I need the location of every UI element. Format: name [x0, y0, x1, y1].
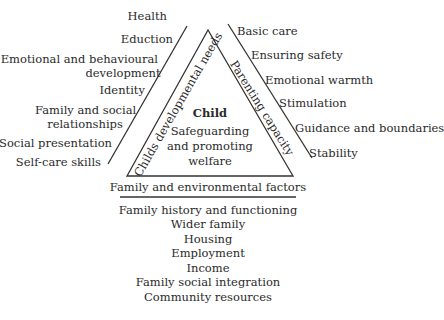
base-item: Income [108, 262, 308, 275]
left-item-education: Eduction [121, 33, 173, 46]
base-item: Housing [108, 233, 308, 246]
right-item-guidance: Guidance and boundaries [295, 122, 444, 135]
right-item-emotional-warmth: Emotional warmth [265, 74, 373, 87]
left-item-development: development [54, 67, 192, 80]
left-item-relationships: relationships [35, 118, 135, 131]
center-line-1: Safeguarding [150, 125, 270, 138]
left-item-self-care: Self-care skills [16, 156, 101, 169]
center-line-3: welfare [150, 155, 270, 168]
left-item-emotional: Emotional and behavioural [1, 53, 158, 66]
right-item-stimulation: Stimulation [279, 97, 347, 110]
base-item: Community resources [108, 291, 308, 304]
base-item: Wider family [108, 218, 308, 231]
right-item-ensuring-safety: Ensuring safety [251, 49, 343, 62]
left-item-family-social: Family and social [35, 104, 135, 117]
right-item-stability: Stability [309, 147, 358, 160]
base-item: Family history and functioning [108, 204, 308, 217]
base-item: Employment [108, 247, 308, 260]
left-item-identity: Identity [99, 84, 145, 97]
base-label: Family and environmental factors [108, 181, 308, 194]
center-title: Child [150, 107, 270, 120]
right-item-basic-care: Basic care [237, 25, 298, 38]
base-item: Family social integration [108, 276, 308, 289]
left-item-social-presentation: Social presentation [0, 137, 112, 150]
center-line-2: and promoting [150, 140, 270, 153]
left-item-health: Health [128, 10, 167, 23]
